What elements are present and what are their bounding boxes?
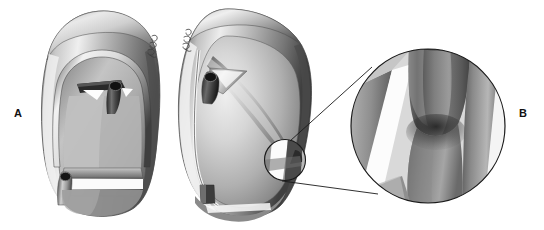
panel-label-b: B <box>519 108 527 119</box>
panel-a-left-view <box>41 11 159 216</box>
right-view-lower-cylinder-highlight <box>200 185 206 204</box>
left-view-inner-plate-highlight <box>64 96 104 168</box>
left-view-lower-slot-highlight <box>64 179 143 189</box>
illustration-canvas <box>0 0 544 230</box>
panel-label-a: A <box>14 108 22 119</box>
magnified-junction-shadow <box>406 114 466 150</box>
figure-root: A B <box>0 0 544 230</box>
panel-a-right-view <box>178 9 311 222</box>
left-view-lower-bar <box>62 168 143 178</box>
